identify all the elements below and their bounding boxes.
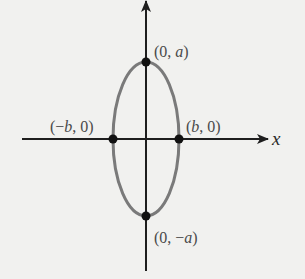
point-right [175, 135, 184, 144]
label-bottom: (0, −a) [154, 229, 198, 247]
x-axis-label: x [271, 128, 281, 149]
point-left [109, 135, 118, 144]
ellipse-diagram: (0, a) (0, −a) (−b, 0) (b, 0) x [0, 0, 305, 279]
point-top [142, 58, 151, 67]
point-bottom [142, 212, 151, 221]
label-top: (0, a) [154, 43, 189, 61]
diagram-canvas: (0, a) (0, −a) (−b, 0) (b, 0) x [0, 0, 305, 279]
label-left: (−b, 0) [50, 118, 94, 136]
label-right: (b, 0) [186, 118, 221, 136]
